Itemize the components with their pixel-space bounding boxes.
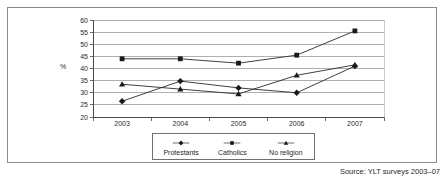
triangle-marker	[273, 140, 299, 146]
y-axis-tick-label: 25	[68, 101, 88, 108]
x-axis-tick-label: 2004	[160, 120, 200, 127]
y-axis-tick-label: 35	[68, 77, 88, 84]
y-axis-tick-label: 50	[68, 41, 88, 48]
legend-item-label: Catholics	[209, 149, 255, 157]
legend-item-label: Protestants	[153, 149, 209, 157]
y-axis-tick-label: 45	[68, 53, 88, 60]
square-marker	[219, 140, 245, 146]
y-axis-tick-label: 30	[68, 89, 88, 96]
diamond-marker	[168, 140, 194, 146]
source-caption: Source: YLT surveys 2003–07	[340, 167, 440, 176]
y-axis-unit-label: %	[60, 63, 66, 70]
legend-item-label: No religion	[256, 149, 316, 157]
y-axis-tick-label: 55	[68, 29, 88, 36]
legend-item: No religion	[256, 134, 316, 161]
chart-legend: ProtestantsCatholicsNo religion	[152, 133, 315, 160]
figure-root: % 202530354045505560 2003200420052006200…	[0, 0, 448, 183]
x-axis-tick-label: 2005	[219, 120, 259, 127]
y-axis-tick-label: 60	[68, 17, 88, 24]
legend-item: Catholics	[209, 134, 255, 161]
legend-item: Protestants	[153, 134, 209, 161]
y-axis-tick-label: 20	[68, 114, 88, 121]
x-axis-tick-label: 2007	[335, 120, 375, 127]
y-axis-tick-label: 40	[68, 65, 88, 72]
x-axis-tick-label: 2003	[102, 120, 142, 127]
x-axis-tick-label: 2006	[277, 120, 317, 127]
